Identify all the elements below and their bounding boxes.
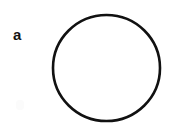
circle-figure-svg bbox=[0, 0, 192, 123]
panel-label: a bbox=[13, 27, 21, 42]
circle-outline bbox=[53, 15, 160, 121]
figure-panel: a bbox=[0, 0, 192, 123]
scan-smudge bbox=[16, 100, 24, 110]
